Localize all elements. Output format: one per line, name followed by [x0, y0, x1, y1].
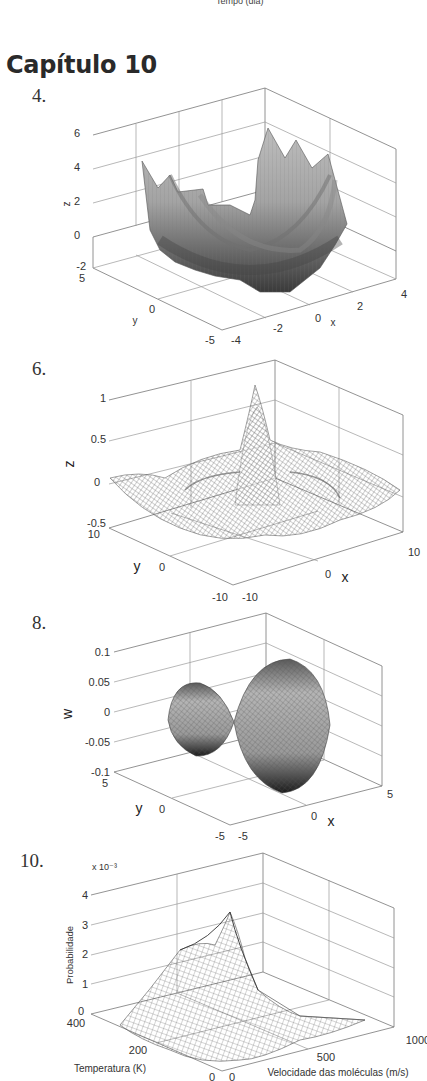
x-tick: 5	[387, 788, 393, 800]
y-tick: 5	[79, 272, 85, 284]
z-tick: 2	[82, 948, 88, 960]
z-tick: 6	[74, 127, 80, 139]
velocidade-axis-label: Velocidade das moléculas (m/s)	[267, 1067, 408, 1078]
z-axis-label: z	[61, 202, 72, 207]
y-axis-label: y	[136, 800, 143, 816]
x-axis-label: x	[328, 813, 335, 829]
surface-plot-8: 0.1 0.05 0 -0.05 -0.1 w 5 0 -5 y -5 0 5 …	[0, 605, 427, 805]
plot-4-z-ticks: 6 4 2 0 -2	[74, 127, 86, 272]
z-tick: 0.1	[95, 646, 110, 658]
y-tick: 400	[67, 1017, 85, 1029]
previous-figure-axis-caption: Tempo (dia)	[216, 0, 264, 6]
y-axis-label: y	[133, 315, 138, 326]
y-tick: 5	[102, 777, 108, 789]
y-tick: -10	[212, 591, 228, 603]
plot-8-surface	[168, 659, 330, 793]
mesh-plot-10: x 10⁻³ 4 3 2 1 0 Probabilidade 400 200 0…	[0, 851, 427, 1081]
x-tick: 0	[325, 568, 331, 580]
x-tick: -10	[242, 591, 258, 603]
z-tick: -2	[76, 260, 86, 272]
y-axis-label: y	[134, 558, 141, 574]
x-axis-label: x	[331, 317, 336, 328]
z-multiplier: x 10⁻³	[92, 862, 117, 872]
y-tick: -5	[205, 334, 215, 346]
plot-4-surface	[142, 128, 347, 292]
z-tick: 0	[94, 476, 100, 488]
x-tick: 0	[229, 1071, 235, 1081]
z-tick: 2	[74, 195, 80, 207]
z-tick: 4	[74, 161, 80, 173]
x-tick: 1000	[406, 1034, 427, 1046]
y-tick: 0	[159, 561, 165, 573]
plot-10-surface	[120, 912, 365, 1061]
w-axis-label: w	[59, 708, 75, 720]
x-tick: 2	[357, 300, 363, 312]
plot-6-surface	[110, 385, 400, 539]
x-tick: 0	[311, 810, 317, 822]
x-axis-label: x	[342, 569, 349, 585]
z-tick: 4	[82, 889, 88, 901]
z-tick: 0	[74, 229, 80, 241]
z-tick: -0.05	[85, 736, 110, 748]
z-tick: 0.05	[89, 676, 110, 688]
x-tick: 4	[401, 288, 407, 300]
x-tick: -5	[238, 830, 248, 842]
z-tick: 0	[104, 706, 110, 718]
surface-plot-4: 6 4 2 0 -2 z 5 0 -5 y -4 -2 0 2 4 x	[0, 80, 427, 340]
y-tick: -5	[215, 830, 225, 842]
plot-4-gridlines	[93, 88, 396, 330]
mesh-plot-6: 1 0.5 0 -0.5 z 10 0 -10 y -10 0 10 x	[0, 355, 427, 575]
z-tick: 1	[82, 978, 88, 990]
x-tick: 10	[408, 546, 420, 558]
z-tick: 3	[82, 919, 88, 931]
chapter-title: Capítulo 10	[6, 51, 157, 79]
y-tick: 0	[159, 803, 165, 815]
y-tick: 0	[209, 1071, 215, 1081]
z-tick: 0	[78, 1005, 84, 1017]
z-axis-label: z	[61, 461, 77, 468]
temperatura-axis-label: Temperatura (K)	[74, 1063, 146, 1074]
probabilidade-axis-label: Probabilidade	[64, 926, 75, 984]
x-tick: -4	[231, 334, 241, 346]
x-tick: 500	[317, 1051, 335, 1063]
y-tick: 0	[149, 303, 155, 315]
x-tick: -2	[273, 322, 283, 334]
z-tick: 1	[100, 392, 106, 404]
z-tick: 0.5	[91, 433, 106, 445]
x-tick: 0	[315, 312, 321, 324]
y-tick: 10	[88, 528, 100, 540]
y-tick: 200	[129, 1044, 147, 1056]
